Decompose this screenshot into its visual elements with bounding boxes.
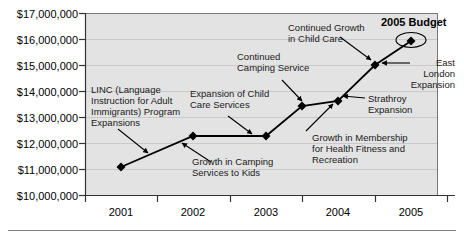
annotation-growth-in-camping-services: Growth in Camping Services to Kids — [192, 156, 292, 178]
annotation-continued-camping-service: Continued Camping Service — [237, 51, 327, 73]
y-axis — [79, 13, 86, 196]
x-axis — [85, 196, 455, 203]
x-tick-label: 2002 — [163, 206, 223, 218]
figure-bottom-rule — [8, 230, 456, 231]
y-tick-label: $14,000,000 — [2, 86, 78, 98]
annotation-strathroy-expansion: Strathroy Expansion — [368, 93, 428, 115]
x-tick-label: 2003 — [236, 206, 296, 218]
callout-2005-budget-label: 2005 Budget — [381, 16, 446, 28]
x-tick-label: 2005 — [381, 206, 441, 218]
chart-figure: $17,000,000 $16,000,000 $15,000,000 $14,… — [0, 0, 464, 243]
annotation-continued-growth-in-child-care: Continued Growth in Child Care — [288, 22, 388, 44]
y-tick-label: $11,000,000 — [2, 164, 78, 176]
annotation-expansion-of-child-care-services: Expansion of Child Care Services — [190, 88, 286, 110]
annotation-growth-in-membership: Growth in Membership for Health Fitness … — [312, 132, 432, 165]
annotation-linc-program-expansions: LINC (Language Instruction for Adult Imm… — [91, 84, 191, 128]
y-tick-label: $10,000,000 — [2, 190, 78, 202]
y-tick-label: $17,000,000 — [2, 8, 78, 20]
x-tick-label: 2004 — [308, 206, 368, 218]
annotation-east-london-expansion: East London Expansion — [392, 57, 455, 90]
y-tick-label: $13,000,000 — [2, 112, 78, 124]
y-tick-label: $15,000,000 — [2, 60, 78, 72]
y-tick-label: $12,000,000 — [2, 138, 78, 150]
x-tick-label: 2001 — [91, 206, 151, 218]
y-tick-label: $16,000,000 — [2, 34, 78, 46]
